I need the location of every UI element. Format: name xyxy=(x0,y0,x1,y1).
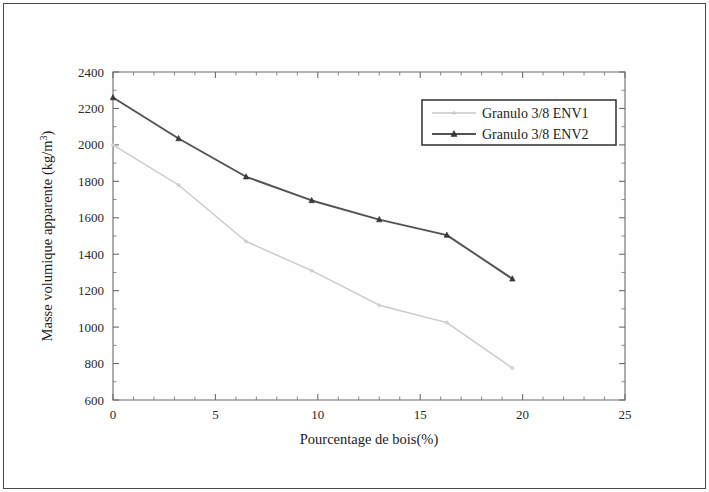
series-line xyxy=(113,145,512,368)
chart-canvas: 60080010001200140016001800200022002400 0… xyxy=(0,0,709,492)
y-tick-label: 2400 xyxy=(78,65,104,80)
y-tick-label: 800 xyxy=(85,356,105,371)
legend-label: Granulo 3/8 ENV1 xyxy=(482,106,589,121)
y-tick-label: 1000 xyxy=(78,320,104,335)
data-point-marker xyxy=(110,94,115,99)
x-tick-label: 20 xyxy=(516,407,529,422)
y-axis-tick-labels: 60080010001200140016001800200022002400 xyxy=(78,65,104,408)
y-tick-label: 1400 xyxy=(78,247,104,262)
data-point-marker xyxy=(511,367,514,370)
data-point-marker xyxy=(177,183,180,186)
y-tick-label: 1600 xyxy=(78,210,104,225)
x-tick-label: 10 xyxy=(311,407,324,422)
chart-legend: Granulo 3/8 ENV1Granulo 3/8 ENV2 xyxy=(422,100,616,145)
chart-figure: 60080010001200140016001800200022002400 0… xyxy=(0,0,709,492)
series-env1 xyxy=(112,143,514,369)
y-tick-label: 1800 xyxy=(78,174,104,189)
x-axis-title: Pourcentage de bois(%) xyxy=(300,431,439,448)
y-tick-label: 600 xyxy=(85,393,105,408)
data-point-marker xyxy=(245,240,248,243)
legend-label: Granulo 3/8 ENV2 xyxy=(482,127,589,142)
legend-swatch-marker xyxy=(453,112,456,115)
x-tick-label: 25 xyxy=(619,407,632,422)
x-tick-label: 0 xyxy=(110,407,117,422)
y-axis-title-text: Masse volumique apparente (kg/m3) xyxy=(38,130,56,341)
x-tick-label: 15 xyxy=(414,407,427,422)
data-point-marker xyxy=(445,321,448,324)
y-axis-title-main: Masse volumique apparente (kg/m xyxy=(39,140,56,342)
data-point-marker xyxy=(310,269,313,272)
x-tick-label: 5 xyxy=(212,407,219,422)
data-point-marker xyxy=(112,143,115,146)
y-tick-label: 1200 xyxy=(78,283,104,298)
data-point-marker xyxy=(378,304,381,307)
x-axis-tick-labels: 0510152025 xyxy=(110,407,632,422)
y-tick-label: 2000 xyxy=(78,137,104,152)
figure-page: 60080010001200140016001800200022002400 0… xyxy=(0,0,709,492)
y-axis-title-tail: ) xyxy=(39,130,56,135)
y-axis-title: Masse volumique apparente (kg/m3) xyxy=(38,130,56,341)
y-tick-label: 2200 xyxy=(78,101,104,116)
